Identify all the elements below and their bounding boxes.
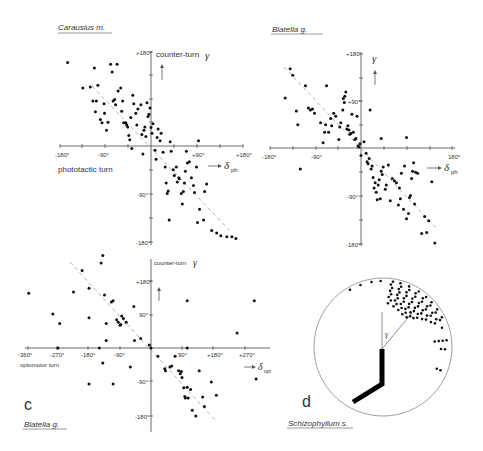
data-point — [370, 168, 373, 171]
y-axis-label: counter-turn — [156, 50, 199, 59]
data-point — [411, 297, 414, 300]
data-point — [414, 295, 417, 298]
data-point — [343, 101, 346, 104]
data-point — [210, 229, 213, 232]
data-point — [416, 317, 419, 320]
data-point — [429, 314, 432, 317]
data-point — [185, 150, 188, 153]
data-point — [299, 168, 302, 171]
data-point — [359, 284, 362, 287]
data-point — [387, 163, 390, 166]
data-point — [429, 304, 432, 307]
data-point — [322, 141, 325, 144]
data-point — [225, 235, 228, 238]
data-point — [421, 309, 424, 312]
data-point — [339, 121, 342, 124]
y-tick: +180° — [136, 279, 153, 285]
x-tick: -270° — [50, 352, 65, 358]
data-point — [88, 287, 91, 290]
data-point — [159, 139, 162, 142]
data-point — [382, 166, 385, 169]
data-point — [380, 137, 383, 140]
data-point — [170, 150, 173, 153]
data-point — [445, 339, 448, 342]
data-point — [410, 177, 413, 180]
data-point — [408, 285, 411, 288]
figure: Carausius m. -180° -90° +90° +180° +180°… — [0, 0, 483, 451]
data-point — [201, 396, 204, 399]
data-point — [416, 172, 419, 175]
data-point — [112, 382, 115, 385]
data-point — [352, 131, 355, 134]
data-point — [417, 290, 420, 293]
y-tick: -90° — [137, 379, 149, 385]
data-point — [396, 297, 399, 300]
delta-symbol: δ — [258, 361, 263, 372]
data-point — [390, 299, 393, 302]
data-point — [166, 192, 169, 195]
data-point — [395, 303, 398, 306]
data-point — [431, 312, 434, 315]
data-point — [148, 344, 151, 347]
data-point — [99, 118, 102, 121]
data-point — [120, 110, 123, 113]
data-point — [111, 71, 114, 74]
data-point — [109, 63, 112, 66]
data-point — [385, 183, 388, 186]
data-point — [72, 291, 75, 294]
data-point — [121, 100, 124, 103]
data-point — [202, 218, 205, 221]
panel-b-title: Blatella g. — [272, 25, 307, 34]
data-point — [425, 296, 428, 299]
data-point — [155, 158, 158, 161]
data-point — [157, 128, 160, 131]
data-point — [433, 242, 436, 245]
data-point — [125, 321, 128, 324]
y-axis-label: counter-turn — [154, 260, 186, 266]
data-point — [440, 348, 443, 351]
data-point — [289, 67, 292, 70]
data-point — [186, 386, 189, 389]
data-point — [174, 355, 177, 358]
data-point — [359, 142, 362, 145]
data-point — [165, 181, 168, 184]
data-point — [421, 300, 424, 303]
data-point — [398, 288, 401, 291]
data-point — [88, 382, 91, 385]
data-point — [427, 219, 430, 222]
data-point — [379, 280, 382, 283]
data-point — [205, 183, 208, 186]
data-point — [390, 283, 393, 286]
data-point — [368, 157, 371, 160]
data-point — [91, 100, 94, 103]
x-axis-label: optomotor turn — [20, 362, 59, 368]
data-point — [363, 140, 366, 143]
data-point — [182, 386, 185, 389]
data-point — [112, 299, 115, 302]
data-point — [27, 292, 30, 295]
arrow-up-icon — [160, 64, 164, 68]
x-axis-label: phototactic turn — [58, 165, 113, 174]
data-point — [81, 269, 84, 272]
data-point — [183, 181, 186, 184]
data-point — [372, 176, 375, 179]
scatter-points — [284, 67, 437, 244]
data-point — [350, 113, 353, 116]
data-point — [398, 187, 401, 190]
data-point — [325, 84, 328, 87]
data-point — [195, 166, 198, 169]
data-point — [379, 197, 382, 200]
data-point — [401, 313, 404, 316]
data-point — [101, 254, 104, 257]
data-point — [127, 134, 130, 137]
data-point — [129, 116, 132, 119]
data-point — [337, 138, 340, 141]
data-point — [347, 129, 350, 132]
data-point — [146, 101, 149, 104]
data-point — [194, 415, 197, 418]
data-point — [423, 215, 426, 218]
gamma-symbol: γ — [205, 49, 210, 61]
x-tick: +270° — [239, 352, 256, 358]
regression-line — [92, 86, 232, 233]
data-point — [405, 217, 408, 220]
